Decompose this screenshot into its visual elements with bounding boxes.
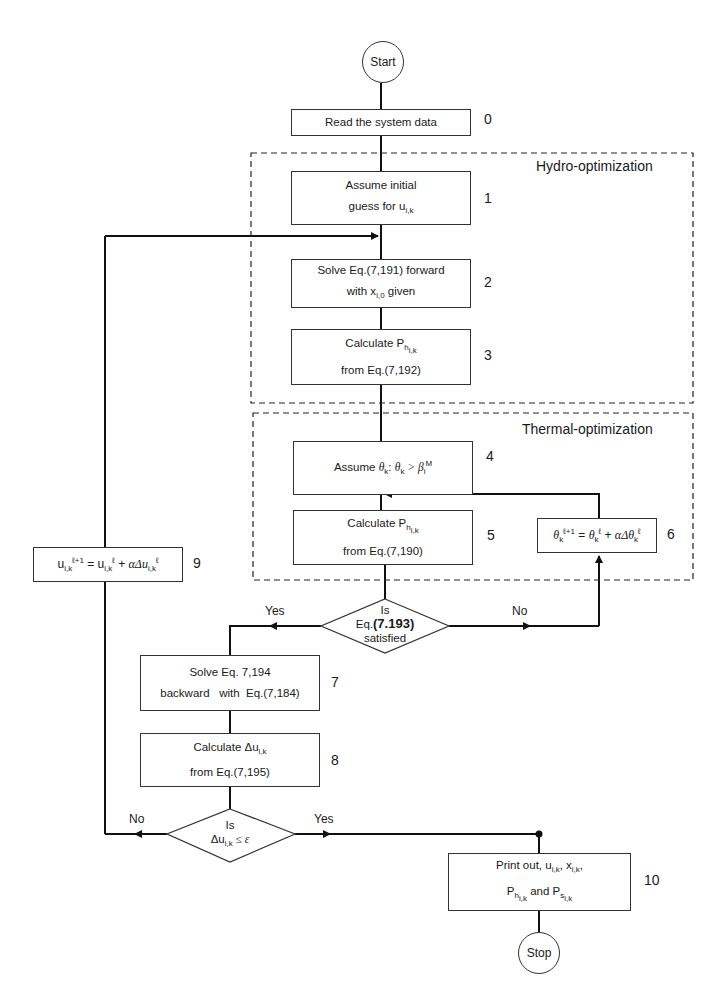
step-2-line1: Solve Eq.(7,191) forward: [317, 260, 444, 281]
step-3-line1: Calculate Phi,k: [345, 333, 416, 361]
step-1-line2: guess for ui,k: [349, 196, 414, 221]
step-7-number: 7: [331, 674, 339, 690]
step-7-line2: backward with Eq.(7,184): [160, 683, 299, 704]
decision-1-eqnum: (7.193): [373, 616, 414, 631]
step-9-update-u: ui,kℓ+1 = ui,kℓ + αΔui,kℓ: [33, 547, 183, 582]
step-5-calc-ph: Calculate Phi,k from Eq.(7,190): [293, 510, 473, 565]
decision-1-text: Is Eq.(7.193) satisfied: [335, 603, 435, 645]
decision-2-no-label: No: [129, 812, 144, 826]
step-8-line1: Calculate Δui,k: [193, 737, 266, 762]
step-10-comma: ,: [580, 859, 583, 871]
step-5-line2: from Eq.(7,190): [343, 541, 423, 562]
step-10-sub4: si,k: [560, 891, 572, 900]
step-10-line2: Phi,k and Psi,k: [507, 881, 572, 909]
step-10-number: 10: [644, 872, 660, 888]
decision-1-yes-label: Yes: [265, 604, 285, 618]
step-9-number: 9: [193, 555, 201, 571]
step-1-line2-text: guess for u: [349, 200, 406, 212]
hydro-region-title: Hydro-optimization: [536, 158, 653, 174]
step-4-cond-sup: M: [425, 459, 432, 468]
step-10-sub4s: i,k: [564, 894, 572, 903]
step-0-text: Read the system data: [325, 112, 437, 133]
step-6-k2: k: [595, 535, 599, 544]
step-8-line1-text: Calculate Δu: [193, 741, 258, 753]
step-2-line2a: with x: [347, 285, 376, 297]
step-6-plus: +: [601, 528, 615, 542]
step-2-sub: i,0: [376, 292, 384, 301]
step-8-sub: i,k: [259, 747, 267, 756]
decision-1-no-label: No: [512, 604, 527, 618]
step-8-line2: from Eq.(7,195): [190, 762, 270, 783]
alpha-delta-theta: αΔθ: [615, 528, 634, 542]
stop-node: Stop: [518, 932, 560, 974]
step-9-plus: +: [115, 557, 129, 571]
step-6-number: 6: [667, 526, 675, 542]
start-node: Start: [362, 41, 404, 83]
step-2-solve-forward: Solve Eq.(7,191) forward with xi,0 given: [291, 259, 471, 308]
decision-1-line1: Is: [335, 603, 435, 617]
step-5-subsub: i,k: [411, 526, 419, 535]
alpha-delta-u: αΔu: [129, 557, 148, 571]
step-2-number: 2: [484, 274, 492, 290]
step-7-solve-backward: Solve Eq. 7,194 backward with Eq.(7,184): [140, 655, 320, 711]
step-4-number: 4: [486, 448, 494, 464]
step-1-line1: Assume initial: [346, 175, 417, 196]
step-10-sub3s: i,k: [519, 894, 527, 903]
step-9-sub3: i,k: [148, 564, 156, 573]
step-10-sub1: i,k: [552, 866, 560, 875]
step-4-cond-sub: i: [424, 468, 426, 477]
step-9-sub: i,k: [64, 564, 72, 573]
thermal-region-title: Thermal-optimization: [522, 421, 653, 437]
decision-2-du: Δu: [211, 833, 225, 845]
step-9-eq: =: [84, 557, 98, 571]
step-3-sub: hi,k: [404, 343, 416, 352]
decision-2-line1: Is: [180, 818, 280, 832]
decision-2-yes-label: Yes: [314, 812, 334, 826]
step-4-cond: > β: [404, 461, 423, 473]
start-label: Start: [370, 55, 395, 69]
step-1-initial-guess: Assume initial guess for ui,k: [291, 171, 471, 225]
step-3-calc-ph: Calculate Phi,k from Eq.(7,192): [291, 329, 471, 385]
decision-2-line2: Δui,k ≤ ε: [180, 832, 280, 851]
step-6-formula: θkℓ+1 = θkℓ + αΔθkℓ: [553, 521, 640, 550]
step-3-line1-text: Calculate P: [345, 337, 404, 349]
step-5-line1-text: Calculate P: [347, 517, 406, 529]
step-2-line2b: given: [385, 285, 416, 297]
step-6-k3: k: [634, 535, 638, 544]
step-9-formula: ui,kℓ+1 = ui,kℓ + αΔui,kℓ: [58, 550, 159, 579]
decision-1-eq: Eq.: [356, 618, 373, 630]
step-6-k: k: [559, 535, 563, 544]
step-9-sup-next: ℓ+1: [72, 556, 84, 565]
step-10-sub3: hi,k: [514, 891, 526, 900]
step-10-x: , x: [560, 859, 572, 871]
step-2-line2: with xi,0 given: [347, 281, 416, 306]
step-3-line2: from Eq.(7,192): [341, 360, 421, 381]
step-4-assume-theta: Assume θk: θk > βiM: [293, 441, 473, 495]
step-10-sub2: i,k: [572, 866, 580, 875]
step-10-print: Print out, u: [496, 859, 552, 871]
step-8-calc-delta-u: Calculate Δui,k from Eq.(7,195): [140, 733, 320, 787]
step-10-line1: Print out, ui,k, xi,k,: [496, 855, 583, 880]
step-5-sub: hi,k: [406, 523, 418, 532]
step-9-sup2: ℓ: [156, 556, 159, 565]
step-9-sub2: i,k: [104, 564, 112, 573]
step-0-number: 0: [484, 111, 492, 127]
step-6-update-theta: θkℓ+1 = θkℓ + αΔθkℓ: [537, 518, 657, 553]
step-4-assume: Assume: [334, 461, 379, 473]
step-6-sup-next: ℓ+1: [563, 527, 575, 536]
step-10-print-out: Print out, ui,k, xi,k, Phi,k and Psi,k: [448, 853, 631, 911]
step-3-subsub: i,k: [409, 345, 417, 354]
step-7-line1: Solve Eq. 7,194: [189, 662, 270, 683]
decision-1-line2: Eq.(7.193): [335, 617, 435, 631]
step-6-eq: =: [575, 528, 589, 542]
decision-1-line3: satisfied: [335, 631, 435, 645]
decision-2-sub: i,k: [225, 839, 233, 848]
step-10-and: and P: [527, 885, 560, 897]
step-5-number: 5: [487, 527, 495, 543]
step-0-read-data: Read the system data: [291, 109, 471, 136]
step-6-sup2: ℓ: [638, 527, 641, 536]
decision-2-text: Is Δui,k ≤ ε: [180, 818, 280, 851]
decision-2-cond: ≤ ε: [233, 833, 250, 845]
stop-label: Stop: [527, 946, 552, 960]
step-1-number: 1: [484, 190, 492, 206]
